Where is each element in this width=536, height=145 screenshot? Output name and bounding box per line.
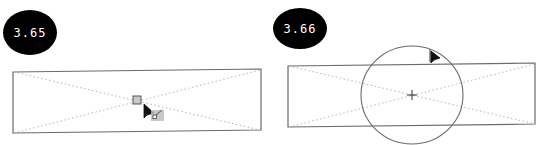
frame-diagram xyxy=(0,0,268,145)
cursor-arrow-icon xyxy=(144,104,164,121)
crosshair-icon xyxy=(407,90,417,100)
center-handle-icon[interactable] xyxy=(133,96,141,104)
figure-3-66: 3.66 xyxy=(268,0,536,145)
figure-3-65: 3.65 xyxy=(0,0,268,145)
circle-diagram xyxy=(268,0,536,145)
